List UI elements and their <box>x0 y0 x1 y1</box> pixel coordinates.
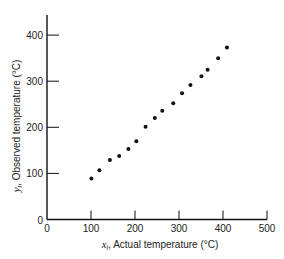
data-points <box>89 46 229 181</box>
x-tick-label: 400 <box>215 223 232 234</box>
data-point <box>126 147 130 151</box>
data-point <box>117 154 121 158</box>
data-point <box>97 168 101 172</box>
data-point <box>108 158 112 162</box>
data-point <box>225 46 229 50</box>
x-tick-label: 100 <box>83 223 100 234</box>
data-point <box>144 125 148 129</box>
data-point <box>188 83 192 87</box>
data-point <box>199 74 203 78</box>
data-point <box>134 139 138 143</box>
x-tick-label: 0 <box>44 223 50 234</box>
data-point <box>160 109 164 113</box>
data-point <box>216 56 220 60</box>
x-tick-label: 300 <box>171 223 188 234</box>
x-axis-ticks: 0100200300400500 <box>44 211 276 234</box>
y-tick-label: 0 <box>37 215 43 226</box>
y-tick-label: 300 <box>26 76 43 87</box>
y-axis-title: yi, Observed temperature (°C) <box>10 60 23 194</box>
data-point <box>153 116 157 120</box>
y-tick-label: 200 <box>26 122 43 133</box>
y-tick-label: 100 <box>26 168 43 179</box>
data-point <box>206 68 210 72</box>
data-point <box>180 91 184 95</box>
y-axis-ticks: 0100200300400 <box>26 30 59 225</box>
scatter-chart: 0100200300400500 0100200300400 xi, Actua… <box>0 0 284 259</box>
data-point <box>89 176 93 180</box>
data-point <box>171 101 175 105</box>
x-tick-label: 500 <box>259 223 276 234</box>
axes <box>47 15 267 220</box>
x-tick-label: 200 <box>127 223 144 234</box>
y-tick-label: 400 <box>26 30 43 41</box>
x-axis-title: xi, Actual temperature (°C) <box>101 238 219 251</box>
